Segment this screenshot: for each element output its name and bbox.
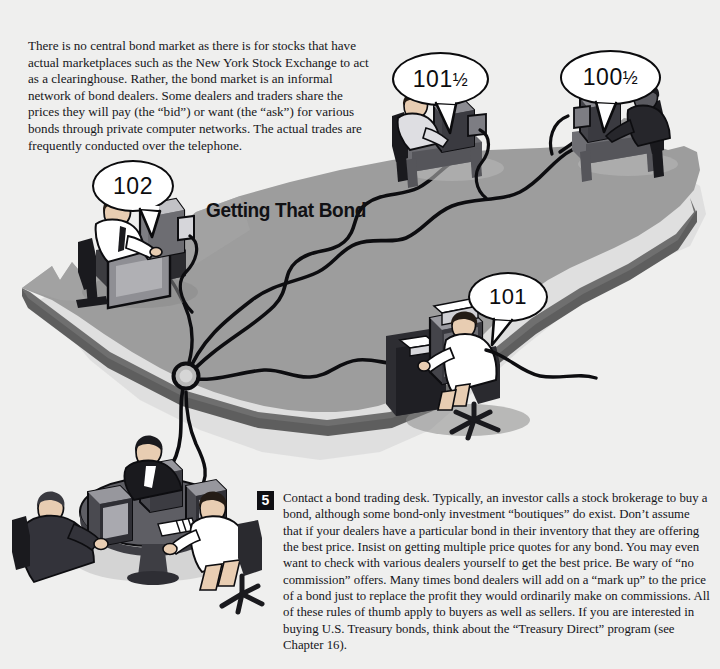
network-hub-node [174,364,199,389]
quote-value-101: 101 [489,284,527,310]
quote-tail-102 [126,205,186,245]
step-number-badge: 5 [257,491,274,510]
quote-tail-101-half [426,99,486,141]
quote-value-100-half: 100½ [583,64,638,91]
quote-bubble-101-half: 101½ [392,52,489,106]
page-title: Getting That Bond [206,198,366,222]
quote-tail-101 [478,315,538,355]
quote-bubble-100-half: 100½ [560,50,661,105]
quote-value-102: 102 [113,173,153,200]
quote-tail-100-half [586,98,646,140]
quote-bubble-101: 101 [468,272,548,322]
intro-paragraph: There is no central bond market as there… [28,38,373,154]
step-paragraph: Contact a bond trading desk. Typically, … [283,490,711,653]
quote-value-101-half: 101½ [413,66,468,93]
quote-bubble-body-101-half: 101½ [392,52,489,106]
quote-bubble-body-100-half: 100½ [560,50,661,105]
quote-bubble-102: 102 [92,160,174,212]
illustration-page: There is no central bond market as there… [0,0,720,669]
